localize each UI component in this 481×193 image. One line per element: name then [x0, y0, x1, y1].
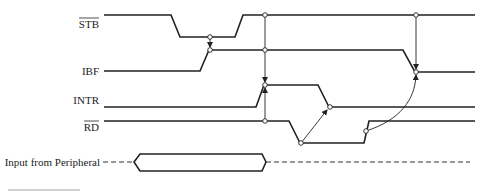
rd-waveform [104, 121, 475, 143]
svg-text:STB: STB [79, 18, 99, 30]
timing-nodes [208, 13, 419, 146]
svg-text:RD: RD [84, 121, 99, 133]
stb-waveform [104, 15, 475, 37]
signal-label-intr: INTR [73, 94, 99, 106]
intr-waveform [104, 85, 475, 107]
signal-label-input: Input from Peripheral [5, 156, 100, 168]
timing-diagram: STB IBF INTR RD Input from Peripheral [0, 0, 481, 193]
causal-arrows [210, 15, 416, 143]
ibf-waveform [104, 50, 475, 72]
signal-label-stb: STB [79, 18, 99, 30]
signal-label-rd: RD [84, 121, 99, 133]
signal-label-ibf: IBF [82, 65, 99, 77]
input-waveform [103, 154, 470, 171]
caption-fragment [8, 189, 80, 191]
